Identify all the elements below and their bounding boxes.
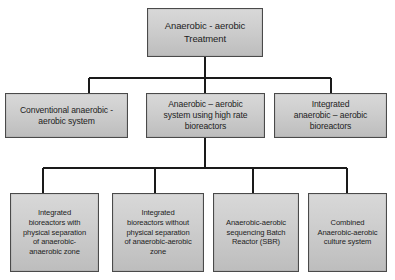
node-anaerobic-aerobic-treatment[interactable]: Anaerobic - aerobic Treatment (147, 8, 263, 57)
node-integrated-bioreactors-with-physical-separation[interactable]: Integrated bioreactors with physical sep… (10, 193, 99, 272)
node-label: Anaerobic – aerobic system using high ra… (151, 99, 260, 132)
node-label: Integrated bioreactors with physical sep… (15, 208, 94, 257)
node-label: Conventional anaerobic - aerobic system (10, 105, 123, 127)
node-label: Anaerobic - aerobic Treatment (152, 20, 258, 44)
node-anaerobic-aerobic-high-rate-bioreactors[interactable]: Anaerobic – aerobic system using high ra… (146, 93, 265, 138)
node-combined-anaerobic-aerobic-culture-system[interactable]: Combined Anaerobic-aerobic culture syste… (308, 193, 387, 272)
node-label: Anaerobic-aerobic sequencing Batch React… (218, 218, 294, 247)
node-label: Combined Anaerobic-aerobic culture syste… (313, 218, 382, 247)
node-conventional-anaerobic-aerobic-system[interactable]: Conventional anaerobic - aerobic system (5, 93, 128, 138)
node-label: Integrated anaerobic – aerobic bioreacto… (279, 99, 382, 132)
node-anaerobic-aerobic-sequencing-batch-reactor[interactable]: Anaerobic-aerobic sequencing Batch React… (213, 193, 299, 272)
node-integrated-anaerobic-aerobic-bioreactors[interactable]: Integrated anaerobic – aerobic bioreacto… (274, 93, 387, 138)
node-integrated-bioreactors-without-physical-separation[interactable]: Integrated bioreactors without physical … (112, 193, 204, 272)
node-label: Integrated bioreactors without physical … (117, 208, 199, 257)
flowchart-diagram: Anaerobic - aerobic Treatment Convention… (0, 0, 395, 280)
